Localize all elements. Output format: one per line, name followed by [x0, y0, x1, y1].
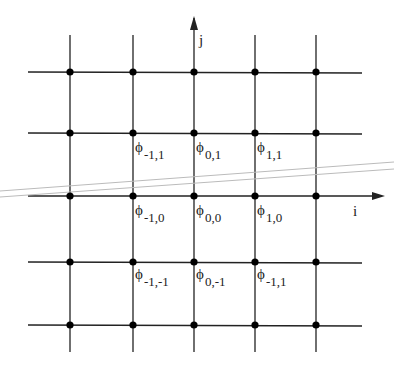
grid-node [190, 321, 197, 328]
phi-label: ϕ0,-1 [196, 266, 226, 289]
grid-node [66, 192, 73, 199]
grid-node [251, 258, 258, 265]
grid-node [251, 68, 258, 75]
phi-label: ϕ1,0 [257, 202, 282, 225]
grid-node [66, 68, 73, 75]
grid-node [251, 129, 258, 136]
grid-node [129, 129, 136, 136]
grid-node [312, 129, 319, 136]
grid-node [190, 68, 197, 75]
grid-diagram: ijϕ-1,1ϕ0,1ϕ1,1ϕ-1,0ϕ0,0ϕ1,0ϕ-1,-1ϕ0,-1ϕ… [0, 0, 394, 372]
grid-canvas: ijϕ-1,1ϕ0,1ϕ1,1ϕ-1,0ϕ0,0ϕ1,0ϕ-1,-1ϕ0,-1ϕ… [0, 0, 394, 372]
grid-node [66, 129, 73, 136]
grid-node [129, 68, 136, 75]
grid-node [312, 192, 319, 199]
phi-label: ϕ-1,-1 [135, 266, 169, 289]
grid-node [129, 192, 136, 199]
grid-node [312, 68, 319, 75]
phi-label: ϕ-1,1 [257, 266, 287, 289]
grid-node [190, 129, 197, 136]
overlay-line [0, 162, 394, 191]
phi-label: ϕ0,1 [196, 139, 221, 162]
phi-label: ϕ-1,1 [135, 139, 165, 162]
grid-node [129, 321, 136, 328]
grid-node [251, 321, 258, 328]
j-axis-arrow-icon [190, 16, 198, 30]
grid-node [312, 258, 319, 265]
phi-label: ϕ-1,0 [135, 202, 165, 225]
j-axis-label: j [198, 32, 203, 48]
i-axis-label: i [353, 203, 357, 219]
phi-label: ϕ0,0 [196, 202, 221, 225]
i-axis-arrow-icon [372, 192, 385, 200]
grid-node [190, 258, 197, 265]
grid-node [129, 258, 136, 265]
grid-node [190, 192, 197, 199]
phi-label: ϕ1,1 [257, 139, 282, 162]
overlay-line [0, 169, 394, 197]
grid-node [66, 258, 73, 265]
grid-node [312, 321, 319, 328]
grid-node [251, 192, 258, 199]
grid-node [66, 321, 73, 328]
